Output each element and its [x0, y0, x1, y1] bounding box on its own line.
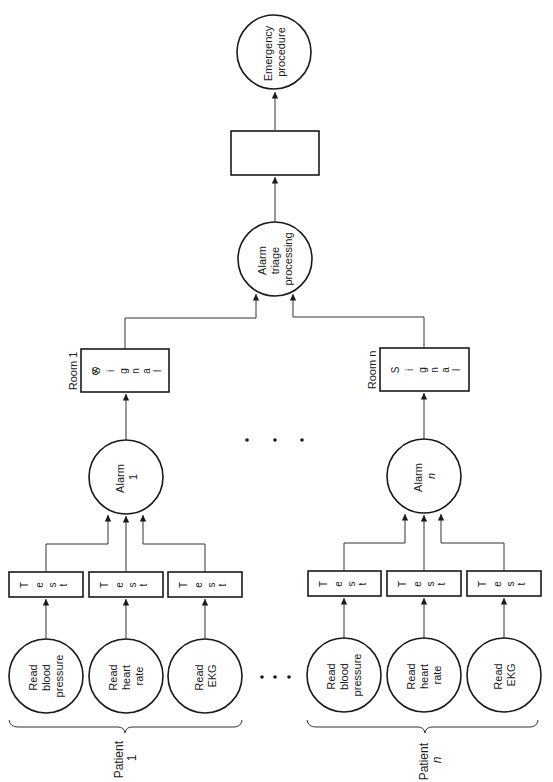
- edge-test-bp-to-alarm1: [46, 515, 108, 572]
- room-n-label: Room n: [366, 351, 378, 390]
- test-letter: s: [425, 582, 436, 587]
- test-letter: e: [333, 581, 344, 587]
- test-box-heart-rate: T e s t: [387, 571, 461, 596]
- test-letter: t: [357, 582, 368, 585]
- room-1-label: Room 1: [67, 352, 79, 391]
- read-blood-pressure-node: Read blood pressure: [9, 639, 83, 713]
- triage-label-line2: triage: [269, 247, 281, 275]
- reader-label-line: pressure: [53, 655, 65, 698]
- alarm-triage-processing-node: Alarm triage processing: [238, 222, 312, 296]
- reader-label-line: Read: [107, 664, 119, 690]
- reader-label-line: rate: [431, 666, 443, 685]
- test-letter: t: [217, 583, 228, 586]
- signal-letter: S: [91, 367, 102, 374]
- reader-label-line: Read: [405, 663, 417, 689]
- patient-n-label-line1: Patient: [417, 742, 431, 780]
- test-letter: t: [436, 582, 447, 585]
- read-ekg-node: Read EKG: [467, 638, 541, 712]
- test-letter: T: [397, 581, 408, 587]
- signal-letter: n: [429, 367, 440, 373]
- reader-label-line: pressure: [351, 654, 363, 697]
- test-box-blood-pressure: T e s t: [9, 572, 83, 597]
- read-heart-rate-node: Read heart rate: [89, 639, 163, 713]
- signal-letter: a: [141, 368, 152, 374]
- edge-test-ekg-to-alarmn: [441, 514, 504, 571]
- test-letter: e: [492, 581, 503, 587]
- reader-label-line: EKG: [505, 663, 517, 686]
- ellipsis-between-patients: [260, 675, 291, 679]
- test-box-ekg: T e s t: [467, 571, 541, 596]
- test-letter: s: [127, 583, 138, 588]
- reader-label-line: blood: [40, 664, 52, 691]
- room-n-signal-box: S i g n a l: [380, 348, 469, 391]
- test-letter: e: [412, 581, 423, 587]
- patient-1-brace: [9, 720, 242, 733]
- svg-text:Patient 1: Patient 1: [112, 738, 139, 779]
- test-letter: s: [206, 583, 217, 588]
- triage-label-line1: Alarm: [256, 246, 268, 275]
- reader-label-line: heart: [120, 665, 132, 690]
- emergency-label-line1: Emergency: [262, 25, 274, 81]
- signal-letter: n: [130, 368, 141, 374]
- test-letter: T: [19, 582, 30, 588]
- reader-label-line: EKG: [206, 664, 218, 687]
- ellipsis-between-rooms: [245, 438, 304, 442]
- svg-text:Read EKG: Read EKG: [193, 661, 218, 690]
- test-letter: t: [516, 582, 527, 585]
- triage-label-line3: processing: [282, 232, 294, 285]
- svg-text:Read EKG: Read EKG: [492, 660, 517, 689]
- reader-label-line: rate: [133, 667, 145, 686]
- alarm-n-node: Alarm n: [387, 439, 461, 513]
- reader-label-line: heart: [418, 664, 430, 689]
- alarm-1-label-line1: Alarm: [114, 464, 126, 493]
- signal-letter: i: [105, 370, 116, 372]
- test-letter: T: [318, 581, 329, 587]
- alarm-1-node: Alarm 1: [89, 440, 163, 514]
- test-letter: s: [47, 583, 58, 588]
- alarm-n-label-line1: Alarm: [412, 463, 424, 492]
- room-1-group: Room 1 S S i g n a l Alarm 1: [9, 349, 242, 778]
- reader-label-line: Read: [492, 663, 504, 689]
- edge-test-ekg-to-alarm1: [143, 515, 205, 572]
- signal-letter: a: [440, 367, 451, 373]
- test-letter: s: [505, 582, 516, 587]
- test-letter: e: [114, 582, 125, 588]
- test-box-blood-pressure: T e s t: [308, 571, 381, 596]
- edge-roomn-signal-to-triage: [293, 294, 424, 348]
- test-letter: t: [58, 583, 69, 586]
- test-letter: e: [34, 582, 45, 588]
- unlabeled-process-box: [231, 131, 319, 175]
- edge-room1-signal-to-triage: [125, 294, 256, 349]
- signal-letter: i: [404, 369, 415, 371]
- signal-letter: g: [417, 367, 428, 373]
- reader-label-line: Read: [193, 664, 205, 690]
- signal-letter: l: [152, 370, 163, 372]
- test-box-ekg: T e s t: [168, 572, 242, 597]
- test-letter: T: [99, 582, 110, 588]
- emergency-label-line2: procedure: [275, 27, 287, 77]
- read-heart-rate-node: Read heart rate: [387, 638, 461, 712]
- svg-text:Emergency procedure: Emergency procedure: [262, 23, 287, 82]
- reader-label-line: blood: [338, 663, 350, 690]
- emergency-procedure-node: Emergency procedure: [237, 15, 311, 89]
- alarm-triage-flow-diagram: Emergency procedure Alarm triage process…: [0, 0, 553, 782]
- patient-n-brace: [307, 720, 538, 733]
- patient-n-label-line2: n: [430, 756, 444, 763]
- edge-test-bp-to-alarmn: [344, 514, 405, 571]
- test-letter: T: [477, 581, 488, 587]
- alarm-1-label-line2: 1: [127, 474, 139, 480]
- alarm-n-label-line2: n: [425, 473, 437, 479]
- test-letter: t: [138, 583, 149, 586]
- room-1-signal-box: S S i g n a l: [81, 349, 169, 392]
- signal-letter: l: [451, 369, 462, 371]
- read-blood-pressure-node: Read blood pressure: [307, 638, 381, 712]
- patient-1-label-line1: Patient: [112, 740, 126, 778]
- test-letter: s: [346, 582, 357, 587]
- reader-label-line: Read: [325, 663, 337, 689]
- svg-text:Patient n: Patient n: [417, 740, 444, 781]
- read-ekg-node: Read EKG: [168, 639, 242, 713]
- test-letter: T: [178, 582, 189, 588]
- reader-label-line: Read: [27, 664, 39, 690]
- room-n-group: Room n S i g n a l Alarm n T e s t: [307, 348, 541, 780]
- signal-letter: S: [390, 366, 401, 373]
